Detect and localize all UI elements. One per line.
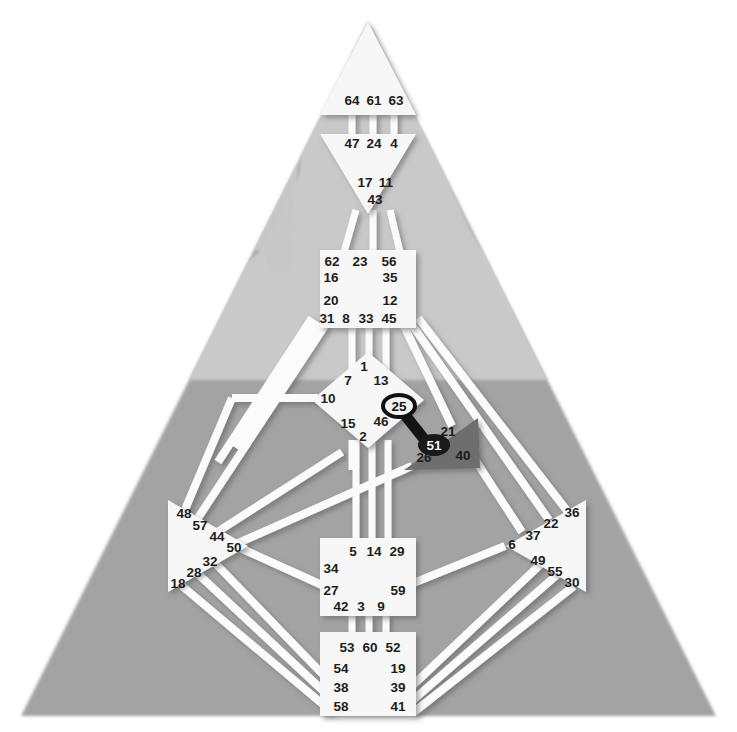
gate-49: 49 [530,553,545,568]
gate-50: 50 [226,540,241,555]
gate-45: 45 [381,311,397,326]
gate-53: 53 [339,640,355,655]
gate-63: 63 [388,93,404,108]
gate-14: 14 [366,544,382,559]
gate-39: 39 [390,680,405,695]
gate-61: 61 [366,93,382,108]
gate-10: 10 [320,391,335,406]
gate-42: 42 [333,599,348,614]
gate-24: 24 [366,136,382,151]
gate-8: 8 [342,311,350,326]
gate-16: 16 [323,270,339,285]
gate-22: 22 [543,516,558,531]
gate-12: 12 [382,293,397,308]
gate-18: 18 [170,576,186,591]
gate-3: 3 [357,599,365,614]
gate-5: 5 [349,544,357,559]
gate-58: 58 [333,699,349,714]
gate-43: 43 [367,192,383,207]
gate-19: 19 [390,661,405,676]
gate-1: 1 [360,359,368,374]
gate-57: 57 [192,518,207,533]
gate-56: 56 [381,254,397,269]
gate-38: 38 [333,680,349,695]
bodygraph-canvas: 64 61 63 47 24 4 17 11 43 62 23 56 16 35… [0,0,737,732]
gate-21: 21 [440,424,456,439]
gate-64: 64 [344,93,360,108]
gate-17: 17 [357,175,372,190]
gate-27: 27 [323,583,338,598]
gate-60: 60 [362,640,377,655]
gate-41: 41 [390,699,406,714]
gate-4: 4 [390,136,398,151]
gate-59: 59 [390,583,405,598]
gate-23: 23 [352,254,368,269]
gate-54: 54 [333,661,349,676]
gate-37: 37 [525,528,540,543]
gate-15: 15 [340,416,356,431]
gate-46: 46 [373,414,389,429]
gate-25[interactable]: 25 [391,399,407,414]
gate-34: 34 [323,561,339,576]
gate-52: 52 [385,640,400,655]
bodygraph-svg: 64 61 63 47 24 4 17 11 43 62 23 56 16 35… [0,0,737,732]
gate-30: 30 [564,575,579,590]
gate-31: 31 [319,311,335,326]
gate-32: 32 [202,554,217,569]
gate-40: 40 [455,448,470,463]
gate-48: 48 [176,506,192,521]
gate-6: 6 [508,537,516,552]
gate-13: 13 [373,373,389,388]
gate-55: 55 [547,564,563,579]
gate-35: 35 [382,270,398,285]
face-profile-silhouette [231,96,300,277]
gate-62: 62 [324,254,339,269]
gate-29: 29 [389,544,404,559]
gate-2: 2 [359,429,367,444]
gate-11: 11 [379,175,394,190]
gate-47: 47 [344,136,359,151]
gate-26: 26 [416,450,432,465]
gate-44: 44 [209,529,225,544]
gate-28: 28 [186,565,202,580]
gate-9: 9 [377,599,385,614]
gate-33: 33 [358,311,374,326]
gate-36: 36 [564,505,580,520]
gate-20: 20 [323,293,338,308]
gate-7: 7 [344,373,352,388]
